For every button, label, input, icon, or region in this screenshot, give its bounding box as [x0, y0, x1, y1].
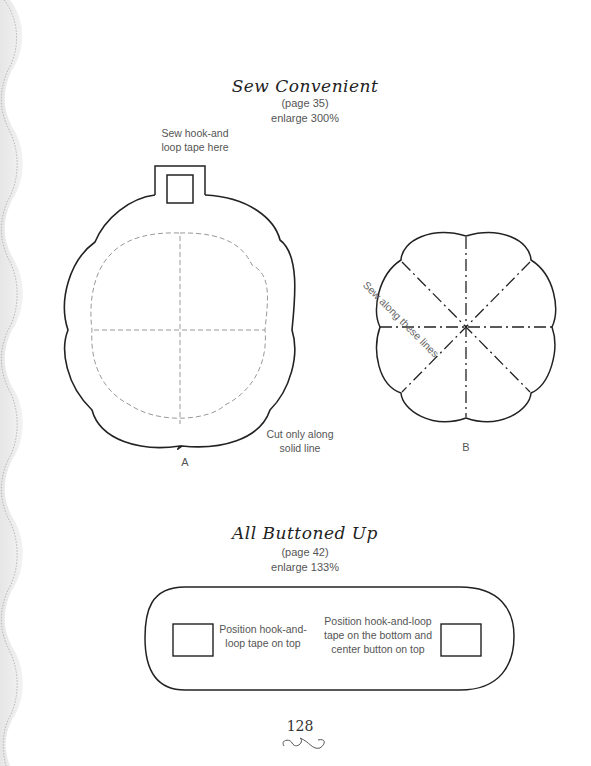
flourish-ornament-icon	[0, 0, 591, 766]
